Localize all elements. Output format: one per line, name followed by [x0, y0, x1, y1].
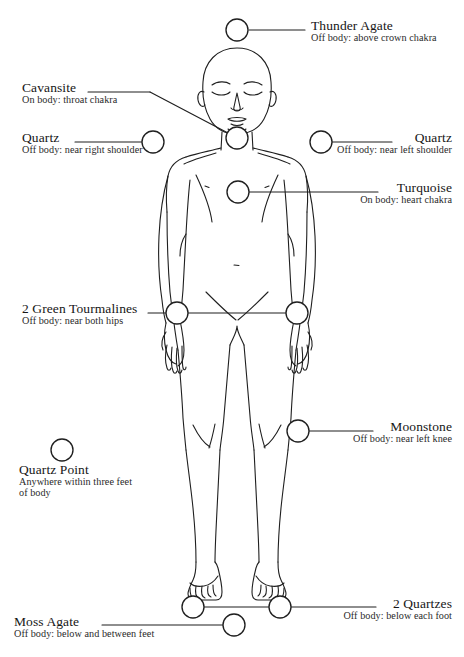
label-green-tourmalines-sub: Off body: near both hips — [22, 316, 137, 327]
diagram-page: Thunder Agate Off body: above crown chak… — [0, 0, 464, 657]
label-quartz-point: Quartz Point Anywhere within three feet … — [19, 463, 139, 499]
label-two-quartzes-sub: Off body: below each foot — [343, 611, 452, 622]
marker-moss-agate — [223, 614, 245, 636]
label-turquoise-title: Turquoise — [360, 181, 452, 195]
marker-turquoise — [227, 181, 249, 203]
label-turquoise: Turquoise On body: heart chakra — [360, 181, 452, 206]
label-moss-agate: Moss Agate Off body: below and between f… — [14, 615, 154, 640]
label-cavansite-title: Cavansite — [22, 81, 117, 95]
marker-thunder-agate — [226, 19, 248, 41]
label-two-quartzes: 2 Quartzes Off body: below each foot — [343, 597, 452, 622]
label-quartz-right-shoulder: Quartz Off body: near right shoulder — [22, 131, 143, 156]
label-quartz-left-shoulder-title: Quartz — [337, 131, 452, 145]
label-quartz-point-sub: Anywhere within three feet of body — [19, 477, 139, 499]
marker-green-tourmaline-left-hip — [286, 302, 308, 324]
label-quartz-left-shoulder-sub: Off body: near left shoulder — [337, 145, 452, 156]
label-quartz-right-shoulder-title: Quartz — [22, 131, 143, 145]
label-moss-agate-title: Moss Agate — [14, 615, 154, 629]
marker-quartz-right-foot — [182, 596, 204, 618]
label-quartz-left-shoulder: Quartz Off body: near left shoulder — [337, 131, 452, 156]
label-moonstone-sub: Off body: near left knee — [353, 434, 452, 445]
marker-quartz-right-shoulder — [142, 131, 164, 153]
label-moonstone-title: Moonstone — [353, 420, 452, 434]
label-moonstone: Moonstone Off body: near left knee — [353, 420, 452, 445]
label-thunder-agate: Thunder Agate Off body: above crown chak… — [311, 19, 437, 44]
label-cavansite: Cavansite On body: throat chakra — [22, 81, 117, 106]
marker-green-tourmaline-right-hip — [166, 302, 188, 324]
label-turquoise-sub: On body: heart chakra — [360, 195, 452, 206]
marker-quartz-left-foot — [269, 596, 291, 618]
leader-lines — [75, 30, 392, 625]
label-thunder-agate-title: Thunder Agate — [311, 19, 437, 33]
label-moss-agate-sub: Off body: below and between feet — [14, 629, 154, 640]
label-green-tourmalines-title: 2 Green Tourmalines — [22, 302, 137, 316]
label-two-quartzes-title: 2 Quartzes — [343, 597, 452, 611]
crystal-markers — [51, 19, 332, 636]
label-thunder-agate-sub: Off body: above crown chakra — [311, 33, 437, 44]
marker-quartz-left-shoulder — [310, 131, 332, 153]
marker-quartz-point — [51, 439, 73, 461]
marker-cavansite — [226, 127, 248, 149]
label-quartz-point-title: Quartz Point — [19, 463, 139, 477]
marker-moonstone — [287, 420, 309, 442]
label-green-tourmalines: 2 Green Tourmalines Off body: near both … — [22, 302, 137, 327]
label-quartz-right-shoulder-sub: Off body: near right shoulder — [22, 145, 143, 156]
leader-cavansite-d — [150, 92, 228, 133]
label-cavansite-sub: On body: throat chakra — [22, 95, 117, 106]
